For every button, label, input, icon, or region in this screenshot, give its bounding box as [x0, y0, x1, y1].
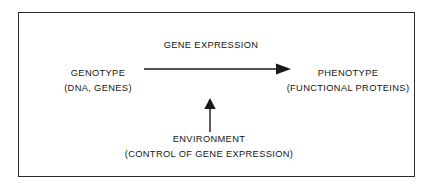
gene-expression-label: GENE EXPRESSION [0, 38, 434, 53]
gene-expression-label-text: GENE EXPRESSION [0, 38, 428, 53]
node-environment: ENVIRONMENT (CONTROL OF GENE EXPRESSION) [119, 132, 299, 162]
node-phenotype-subtitle: (FUNCTIONAL PROTEINS) [278, 81, 418, 96]
node-genotype: GENOTYPE (DNA, GENES) [33, 66, 163, 96]
node-environment-subtitle: (CONTROL OF GENE EXPRESSION) [119, 147, 299, 162]
environment-arrow [198, 97, 222, 133]
node-genotype-subtitle: (DNA, GENES) [33, 81, 163, 96]
node-genotype-title: GENOTYPE [33, 66, 163, 81]
arrow-right-icon [143, 61, 293, 77]
node-phenotype-title: PHENOTYPE [278, 66, 418, 81]
figure-root: GENE EXPRESSION GENOTYPE (DNA, GENES) PH… [0, 0, 434, 190]
node-environment-title: ENVIRONMENT [119, 132, 299, 147]
node-phenotype: PHENOTYPE (FUNCTIONAL PROTEINS) [278, 66, 418, 96]
arrow-up-icon [198, 97, 222, 133]
gene-expression-arrow [143, 61, 293, 77]
